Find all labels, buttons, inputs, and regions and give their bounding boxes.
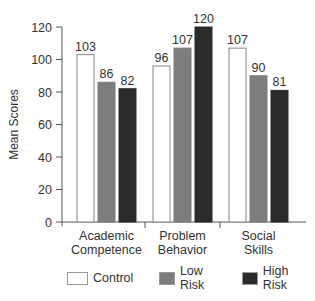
bar-value-label: 107 bbox=[227, 33, 248, 47]
bar-value-label: 107 bbox=[172, 33, 193, 47]
y-tick-label: 120 bbox=[31, 21, 52, 35]
y-axis-label: Mean Scores bbox=[7, 89, 21, 160]
x-category-label: Competence bbox=[71, 243, 142, 257]
y-tick-label: 0 bbox=[45, 216, 52, 230]
legend-item-control: Control bbox=[67, 271, 133, 285]
legend-swatch-high-risk bbox=[242, 272, 258, 285]
bar-value-label: 120 bbox=[193, 12, 214, 26]
bar-low-risk bbox=[174, 48, 191, 222]
bar-value-label: 90 bbox=[252, 61, 266, 75]
bar-value-label: 103 bbox=[75, 40, 96, 54]
legend: Control Low Risk High Risk bbox=[67, 264, 315, 292]
bar-value-label: 86 bbox=[100, 67, 114, 81]
x-category-label: Social bbox=[241, 229, 275, 243]
bar-control bbox=[229, 48, 246, 222]
bar-value-label: 82 bbox=[121, 74, 135, 88]
legend-item-low-risk: Low Risk bbox=[159, 264, 216, 292]
bar-chart: 020406080100120Mean Scores1038682Academi… bbox=[0, 0, 315, 301]
bar-high-risk bbox=[195, 27, 212, 222]
x-category-label: Academic bbox=[79, 229, 134, 243]
y-tick-label: 80 bbox=[38, 86, 52, 100]
y-tick-label: 20 bbox=[38, 183, 52, 197]
x-category-label: Behavior bbox=[158, 243, 207, 257]
bar-value-label: 81 bbox=[273, 75, 287, 89]
legend-swatch-low-risk bbox=[159, 272, 175, 285]
bar-high-risk bbox=[119, 89, 136, 222]
legend-label: Control bbox=[93, 271, 133, 285]
bar-low-risk bbox=[98, 82, 115, 222]
y-tick-label: 60 bbox=[38, 118, 52, 132]
bar-control bbox=[77, 55, 94, 222]
bar-high-risk bbox=[271, 90, 288, 222]
y-tick-label: 40 bbox=[38, 151, 52, 165]
legend-item-high-risk: High Risk bbox=[242, 264, 301, 292]
legend-label: Low Risk bbox=[180, 264, 216, 292]
x-category-label: Skills bbox=[244, 243, 273, 257]
legend-swatch-control bbox=[67, 272, 88, 285]
x-category-label: Problem bbox=[159, 229, 206, 243]
bar-value-label: 96 bbox=[155, 51, 169, 65]
bar-low-risk bbox=[250, 76, 267, 222]
bar-control bbox=[153, 66, 170, 222]
legend-label: High Risk bbox=[263, 264, 301, 292]
y-tick-label: 100 bbox=[31, 53, 52, 67]
